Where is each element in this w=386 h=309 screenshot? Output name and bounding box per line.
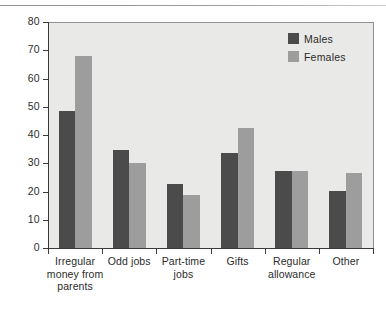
y-tick-label: 20 <box>0 186 40 197</box>
y-tick-mark <box>43 163 49 164</box>
y-tick-mark <box>43 50 49 51</box>
legend-item-females: Females <box>288 49 346 64</box>
y-tick-mark <box>43 79 49 80</box>
y-tick-label: 10 <box>0 214 40 225</box>
top-divider-rule <box>0 5 386 6</box>
y-tick-label: 40 <box>0 129 40 140</box>
x-axis-category-label-line: money from <box>31 268 120 281</box>
legend-label-females: Females <box>304 51 346 63</box>
x-tick-mark <box>156 249 157 254</box>
bar-males <box>113 150 130 249</box>
bar-males <box>275 171 292 249</box>
bar-females <box>129 163 146 249</box>
bar-females <box>183 195 200 249</box>
y-tick-mark <box>43 22 49 23</box>
y-tick-label: 80 <box>0 16 40 27</box>
bar-males <box>167 184 184 249</box>
x-tick-mark <box>265 249 266 254</box>
y-tick-mark <box>43 220 49 221</box>
bar-chart-figure: 01020304050607080 Irregularmoney frompar… <box>0 0 386 309</box>
y-tick-label: 50 <box>0 101 40 112</box>
legend-swatch-females-icon <box>288 51 299 62</box>
chart-legend: Males Females <box>288 31 346 67</box>
x-axis-category-label-line: parents <box>31 280 120 293</box>
legend-item-males: Males <box>288 31 346 46</box>
y-tick-mark <box>43 192 49 193</box>
x-axis-category-label: Other <box>302 255 386 268</box>
x-tick-mark <box>373 249 374 254</box>
y-tick-mark <box>43 107 49 108</box>
x-tick-mark <box>211 249 212 254</box>
bar-females <box>75 56 92 250</box>
y-tick-label: 0 <box>0 242 40 253</box>
x-tick-mark <box>48 249 49 254</box>
x-tick-mark <box>102 249 103 254</box>
bar-females <box>346 173 363 249</box>
y-tick-label: 30 <box>0 157 40 168</box>
bar-males <box>59 111 76 249</box>
y-tick-label: 70 <box>0 44 40 55</box>
bar-females <box>238 128 255 249</box>
x-axis-category-label-line: Other <box>302 255 386 268</box>
bar-females <box>292 171 309 249</box>
x-axis-category-label-line: jobs <box>139 268 228 281</box>
bar-males <box>329 191 346 249</box>
x-tick-mark <box>319 249 320 254</box>
x-axis-category-label-line: allowance <box>247 268 336 281</box>
y-tick-label: 60 <box>0 73 40 84</box>
bar-males <box>221 153 238 249</box>
legend-label-males: Males <box>304 33 333 45</box>
legend-swatch-males-icon <box>288 33 299 44</box>
y-tick-mark <box>43 135 49 136</box>
